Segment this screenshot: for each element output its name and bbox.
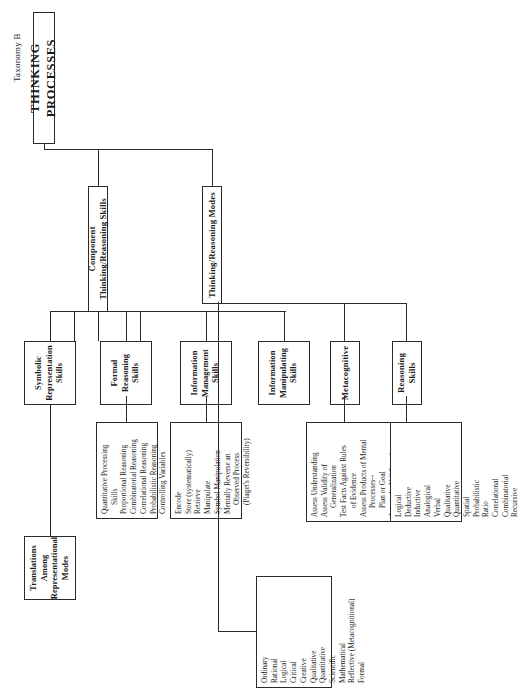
node-symbolic-line3: Skills (55, 363, 64, 383)
list-item: Verbal (433, 427, 443, 517)
connector-component-manipulating (140, 311, 141, 341)
taxonomy-label: Taxonomy B (12, 33, 22, 82)
node-info-manip-line2: Manipulating (279, 348, 288, 398)
connector-modes-reasoning (344, 303, 345, 341)
list-item: Test Facts Against Rules (339, 427, 349, 517)
list-item: Assess Products of Mental (359, 427, 369, 517)
list-item: Plan or Goal (378, 427, 388, 517)
connector-metacognitive-out (344, 396, 345, 422)
connector-modes-to-modes-list (218, 302, 219, 632)
list-item: Logical (279, 581, 289, 683)
list-item: Formal (357, 581, 367, 683)
list-item: Ordinary (260, 581, 270, 683)
connector-manipulating-in (284, 312, 285, 341)
page-title: THINKING PROCESSES (28, 15, 59, 141)
modes-vertical-bus-2 (212, 303, 406, 304)
connector-to-component (98, 149, 99, 186)
list-reasoning-skills: LogicalDeductiveInductiveAnalogicalVerba… (390, 422, 462, 522)
node-formal-line1: Formal (110, 359, 119, 386)
connector-component-formal (74, 311, 75, 341)
list-item: Reflective (Metacognitional) (347, 581, 357, 683)
node-info-manip-line3: Skills (289, 363, 298, 383)
branch-component-skills: Component Thinking/Reasoning Skills (88, 186, 108, 312)
connector-component-management (98, 311, 99, 341)
node-reasoning-skills: Reasoning Skills (392, 341, 422, 405)
list-item: Probabilistic (472, 427, 482, 517)
node-metacognitive-label: Metacognitive (340, 346, 351, 401)
connector-modes-list (406, 303, 407, 341)
node-symbolic-line2: Representation (45, 345, 54, 401)
component-bus-tap (98, 311, 99, 312)
list-item: Combinatorial (501, 427, 511, 517)
list-item: Correlational Reasoning (139, 427, 149, 514)
connector-management-out (206, 396, 207, 422)
connector-reasoning-out (406, 396, 407, 422)
list-item: Observed Process (232, 427, 242, 514)
node-translations-line2: Representational (50, 537, 59, 599)
node-info-mgmt-line1: Information (190, 351, 199, 396)
list-item: (Piaget's Reversibility) (242, 427, 252, 514)
connector-title-spine (44, 149, 212, 150)
list-item: Analogical (423, 427, 433, 517)
list-item: Spatial (462, 427, 472, 517)
node-information-manipulating-skills: Information Manipulating Skills (258, 341, 310, 405)
connector-formal-out (126, 396, 127, 422)
branch-thinking-modes: Thinking/Reasoning Modes (202, 186, 222, 304)
connector-to-modes (212, 149, 213, 186)
node-symbolic-line1: Symbolic (34, 356, 43, 390)
list-item: Assess Understanding (310, 427, 320, 517)
list-item: Combinatorial Reasoning (129, 427, 139, 514)
node-info-mgmt-line2: Management (201, 349, 210, 397)
page-title-box: THINKING PROCESSES (33, 12, 55, 144)
list-item: Qualitative (443, 427, 453, 517)
list-item: Quantitative Processing (100, 427, 110, 514)
list-item: Mathematical (338, 581, 348, 683)
node-translations-line3: Modes (61, 556, 70, 580)
connector-formal-in (126, 312, 127, 341)
list-formal-reasoning-skills: Quantitative ProcessingSkillsProportiona… (96, 422, 158, 519)
list-item: Store (systematically) (184, 427, 194, 514)
connector-symbolic-to-translations (50, 422, 51, 536)
list-item: Deductive (404, 427, 414, 517)
list-item: Generalization (329, 427, 339, 517)
list-item: Ratio (481, 427, 491, 517)
list-item: Probabilistic Reasoning (149, 427, 159, 514)
list-metacognitive: Assess UnderstandingAssess Validity ofGe… (306, 422, 398, 522)
list-item: Assess Validity of (320, 427, 330, 517)
list-item: Quantitative (452, 427, 462, 517)
node-reasoning-skills-label: Reasoning Skills (396, 344, 418, 402)
list-item: of Evidence (349, 427, 359, 517)
branch-component-skills-label: Component Thinking/Reasoning Skills (87, 189, 109, 309)
list-item: Proportional Reasoning (119, 427, 129, 514)
list-item: Encode (174, 427, 184, 514)
list-item: Inductive (413, 427, 423, 517)
node-metacognitive: Metacognitive (330, 341, 360, 405)
node-info-manip-line1: Information (268, 351, 277, 396)
connector-symbolic-out (50, 405, 51, 422)
list-item: Retrieve (193, 427, 203, 514)
list-item: Rational (270, 581, 280, 683)
list-item: Manipulate (203, 427, 213, 514)
node-translations-line1: Translations Among (29, 545, 49, 591)
list-item: Scientific (328, 581, 338, 683)
list-item: Mentally Reverse an (223, 427, 233, 514)
component-vertical-bus (50, 311, 286, 312)
branch-thinking-modes-label: Thinking/Reasoning Modes (207, 192, 218, 298)
node-formal-line2: Reasoning (121, 354, 130, 392)
list-item: Recursive (510, 427, 520, 517)
connector-management-in (206, 312, 207, 341)
node-formal-line3: Skills (131, 363, 140, 383)
node-translations-among-representational-modes: Translations Among Representational Mode… (24, 536, 76, 600)
list-item: Skills (110, 427, 120, 514)
node-symbolic-representation-skills: Symbolic Representation Skills (24, 341, 76, 405)
list-information-management-skills: EncodeStore (systematically)RetrieveMani… (170, 422, 242, 519)
list-item: Quantitative (318, 581, 328, 683)
connector-symbolic-in (50, 312, 51, 341)
list-item: Creative (299, 581, 309, 683)
list-item: Logical (394, 427, 404, 517)
list-item: Qualitative (309, 581, 319, 683)
connector-modes-list-drop (218, 631, 258, 632)
list-thinking-reasoning-modes: OrdinaryRationalLogicalCriticalCreativeQ… (256, 576, 332, 688)
list-item: Correlational (491, 427, 501, 517)
